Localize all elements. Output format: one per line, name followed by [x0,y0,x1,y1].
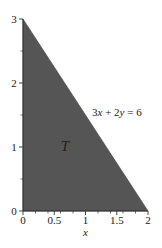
y-tick-label: 3 [11,13,17,25]
y-tick-label: 1 [11,141,17,153]
y-tick-label: 2 [11,77,17,89]
x-tick-label: 1.5 [110,214,124,226]
x-tick-label: 1 [83,214,89,226]
x-tick-label: 0 [20,214,26,226]
x-tick-label: 2 [145,214,151,226]
y-tick-label: 0 [11,205,17,217]
x-axis-label: x [82,226,88,238]
x-tick-label: 0.5 [47,214,61,226]
line-equation-label: 3x + 2y = 6 [92,106,142,118]
triangle-region-diagram: 0 0.5 1 1.5 2 x 0 1 2 3 T 3x + 2y = 6 [0,0,162,248]
